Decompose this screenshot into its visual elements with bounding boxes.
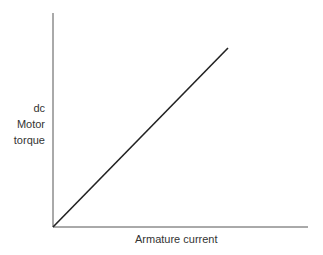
y-axis-label: dc Motor torque bbox=[14, 100, 45, 148]
y-label-line-1: dc bbox=[14, 100, 45, 116]
y-label-line-2: Motor bbox=[14, 116, 45, 132]
torque-line bbox=[53, 48, 228, 227]
chart-plot bbox=[0, 0, 323, 255]
y-label-line-3: torque bbox=[14, 132, 45, 148]
x-axis-label: Armature current bbox=[135, 233, 218, 245]
